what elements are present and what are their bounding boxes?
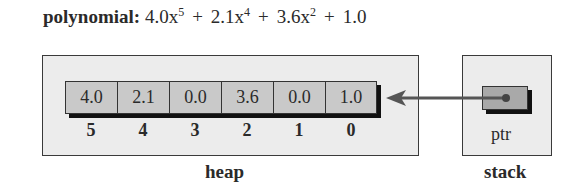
pointer-dot-icon [502, 94, 510, 102]
pointer-arrow [0, 0, 579, 190]
